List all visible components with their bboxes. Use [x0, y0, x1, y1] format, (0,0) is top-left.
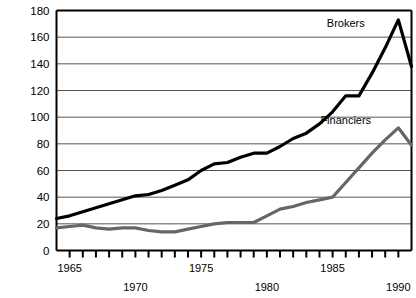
line-chart: 020406080100120140160180 196519751985197…	[0, 0, 416, 298]
y-axis-tick-label: 120	[30, 85, 49, 97]
x-axis-ticks	[70, 251, 399, 258]
x-axis-tick-label: 1985	[320, 262, 344, 274]
y-axis-tick-label: 180	[30, 5, 49, 17]
series-label-financiers: Financiers	[320, 114, 371, 126]
series-label-brokers: Brokers	[327, 17, 365, 29]
y-axis-tick-label: 100	[30, 111, 49, 123]
x-axis-tick-label: 1965	[57, 262, 81, 274]
y-axis-tick-label: 160	[30, 31, 49, 43]
y-axis-tick-label: 0	[43, 245, 49, 257]
x-axis-tick-label: 1975	[189, 262, 213, 274]
series-annotations: BrokersFinanciers	[320, 17, 371, 126]
y-axis-tick-label: 40	[37, 191, 50, 203]
y-axis-tick-label: 80	[37, 138, 50, 150]
y-axis-tick-labels: 020406080100120140160180	[30, 5, 49, 257]
chart-container: 020406080100120140160180 196519751985197…	[0, 0, 416, 298]
x-axis-tick-labels: 196519751985197019801990	[57, 262, 410, 293]
x-axis-tick-label: 1970	[123, 281, 147, 293]
plot-frame	[57, 11, 412, 251]
x-axis-tick-label: 1980	[255, 281, 279, 293]
gridlines	[57, 37, 412, 224]
y-axis-tick-label: 20	[37, 218, 50, 230]
y-axis-tick-label: 140	[30, 58, 49, 70]
x-axis-tick-label: 1990	[386, 281, 410, 293]
y-axis-tick-label: 60	[37, 165, 50, 177]
